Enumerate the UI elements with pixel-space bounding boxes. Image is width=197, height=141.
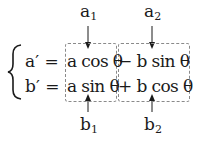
- equation-1-term-2: − b sin θ: [118, 53, 189, 70]
- equation-2-term-1: a sin θ: [67, 78, 119, 95]
- equation-2-lhs: b′ =: [25, 78, 59, 95]
- label-b2: b2: [144, 116, 162, 135]
- label-b1: b1: [80, 116, 98, 135]
- label-a2: a2: [144, 3, 161, 22]
- equation-1-lhs: a′ =: [25, 53, 59, 70]
- equation-1-term-1: a cos θ: [67, 53, 122, 70]
- equation-2-term-2: + b cos θ: [118, 78, 193, 95]
- label-a1: a1: [80, 3, 97, 22]
- left-brace-icon: [8, 45, 21, 99]
